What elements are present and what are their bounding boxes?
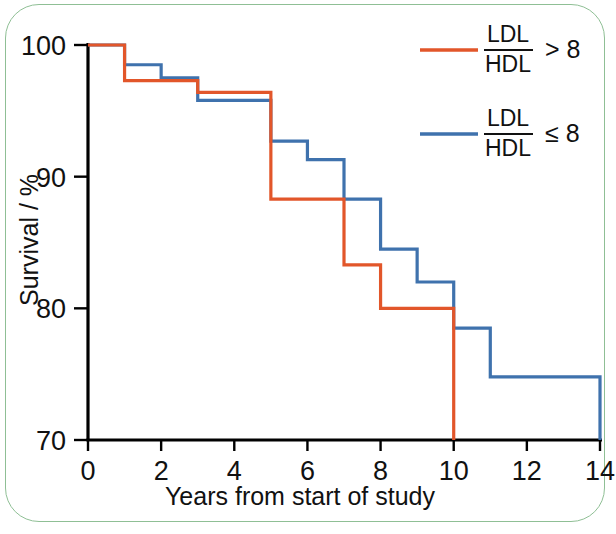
legend-denominator-le8: HDL	[485, 135, 531, 161]
x-tick-label-0: 0	[80, 456, 95, 486]
legend-entry-le8: LDL HDL ≤ 8	[420, 105, 580, 161]
y-tick-label-70: 70	[36, 426, 66, 456]
legend-operator-le8: ≤ 8	[545, 119, 580, 147]
x-axis-title: Years from start of study	[165, 482, 436, 510]
x-axis-title-text: Years from start of study	[165, 482, 436, 510]
legend-numerator-le8: LDL	[487, 105, 529, 131]
series-line-gt8	[88, 45, 454, 440]
legend-denominator-gt8: HDL	[485, 51, 531, 77]
y-tick-label-100: 100	[21, 31, 66, 61]
legend-entry-gt8: LDL HDL > 8	[420, 21, 580, 77]
legend-numerator-gt8: LDL	[487, 21, 529, 47]
chart-figure: 02468101214708090100 Survival / % Years …	[0, 0, 616, 534]
y-axis-title: Survival / %	[15, 174, 43, 306]
tick-labels-group: 02468101214708090100	[21, 31, 615, 486]
x-tick-label-10: 10	[439, 456, 469, 486]
x-tick-label-12: 12	[512, 456, 542, 486]
y-axis-title-text: Survival / %	[15, 174, 43, 306]
survival-chart-svg: 02468101214708090100 Survival / % Years …	[0, 0, 616, 534]
x-tick-label-14: 14	[585, 456, 615, 486]
legend: LDL HDL > 8 LDL HDL ≤ 8	[420, 21, 580, 161]
legend-operator-gt8: > 8	[545, 35, 580, 63]
